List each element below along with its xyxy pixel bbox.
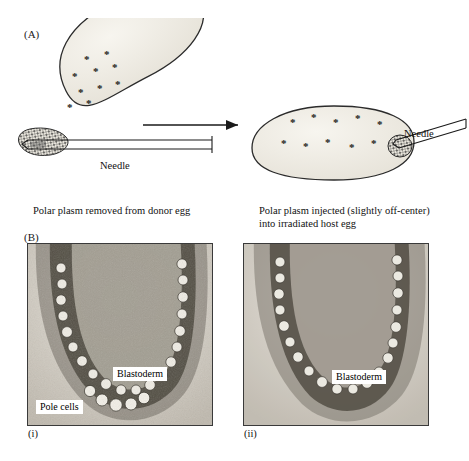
svg-text:*: *	[290, 116, 296, 128]
tag-blastoderm-ii: Blastoderm	[332, 370, 386, 384]
svg-text:*: *	[84, 53, 90, 65]
donor-egg	[40, 18, 220, 114]
micrograph-ii-image	[244, 244, 428, 425]
svg-text:*: *	[371, 137, 377, 149]
caption-donor-egg: Polar plasm removed from donor egg	[33, 204, 203, 217]
panel-b-label: (B)	[24, 231, 39, 243]
tag-blastoderm-i: Blastoderm	[113, 367, 167, 381]
micrograph-ii-sublabel: (ii)	[244, 428, 257, 439]
svg-text:*: *	[115, 78, 121, 90]
svg-text:*: *	[333, 116, 339, 128]
svg-text:*: *	[104, 48, 110, 60]
svg-text:*: *	[355, 112, 361, 124]
svg-text:*: *	[72, 70, 78, 82]
micrograph-i-image	[28, 244, 212, 425]
svg-text:*: *	[311, 111, 317, 123]
svg-text:*: *	[281, 137, 287, 149]
micrograph-i: Blastoderm Pole cells	[27, 243, 213, 426]
svg-text:*: *	[97, 82, 103, 94]
svg-text:*: *	[112, 61, 118, 73]
figure-container: (A) * *	[0, 0, 469, 461]
panel-a-diagram: * * * * * * * * * *	[0, 18, 469, 223]
svg-text:*: *	[86, 97, 92, 109]
needle-label-right: Needle	[404, 128, 434, 139]
needle-label-left: Needle	[100, 160, 130, 171]
donor-egg-outline	[40, 18, 220, 114]
svg-text:*: *	[377, 118, 383, 130]
svg-text:*: *	[325, 136, 331, 148]
svg-text:*: *	[78, 86, 84, 98]
tag-pole-cells-i: Pole cells	[36, 400, 83, 414]
svg-text:*: *	[93, 65, 99, 77]
svg-text:*: *	[303, 140, 309, 152]
caption-host-egg: Polar plasm injected (slightly off-cente…	[259, 204, 444, 230]
panel-a: * * * * * * * * * *	[0, 18, 469, 223]
svg-text:*: *	[349, 141, 355, 153]
transfer-arrow	[143, 120, 238, 130]
micrograph-i-sublabel: (i)	[28, 428, 38, 439]
svg-text:*: *	[67, 101, 73, 113]
micrograph-ii: Blastoderm	[243, 243, 429, 426]
panel-b: Blastoderm Pole cells	[0, 243, 469, 443]
